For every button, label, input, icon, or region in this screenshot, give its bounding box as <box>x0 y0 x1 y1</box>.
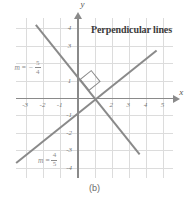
y-axis-arrow-icon <box>74 12 82 19</box>
y-axis <box>77 18 78 178</box>
gridline-horizontal <box>16 133 173 134</box>
slope-variable: m <box>38 156 43 165</box>
fraction-numerator: 5 <box>36 60 40 68</box>
fraction-denominator: 4 <box>36 68 40 76</box>
xtick-label: 4 <box>144 101 148 109</box>
ytick-label: -3 <box>66 146 72 154</box>
slope-label-negative: m = − 5 4 <box>14 60 40 76</box>
xtick-label: -3 <box>22 101 28 109</box>
slope-variable: m <box>14 63 19 72</box>
xtick-label: 2 <box>109 101 113 109</box>
slope-fraction: 5 4 <box>35 60 41 76</box>
slope-equals-sign: = − <box>21 63 33 72</box>
xtick-label: 5 <box>161 101 165 109</box>
ytick-label: 3 <box>68 42 72 50</box>
perpendicular-lines-figure: -3 -2 -1 2 3 4 5 4 3 1 -1 -2 -3 -4 x y m… <box>0 0 189 206</box>
slope-fraction: 4 5 <box>51 152 57 168</box>
ytick-label: -2 <box>66 129 72 137</box>
fraction-denominator: 5 <box>53 161 57 169</box>
chart-title: Perpendicular lines <box>88 23 175 36</box>
right-angle-marker <box>80 70 101 91</box>
x-axis-label: x <box>179 87 183 97</box>
ytick-label: -4 <box>66 164 72 172</box>
slope-label-positive: m = 4 5 <box>38 152 57 168</box>
y-axis-label: y <box>80 0 84 9</box>
ytick-label: 4 <box>68 24 72 32</box>
ytick-label: 1 <box>68 77 72 85</box>
coordinate-plot: -3 -2 -1 2 3 4 5 4 3 1 -1 -2 -3 -4 x y m… <box>16 18 173 178</box>
gridline-horizontal <box>16 46 173 47</box>
slope-equals-sign: = <box>45 156 50 165</box>
gridline-horizontal <box>16 150 173 151</box>
fraction-numerator: 4 <box>53 152 57 160</box>
xtick-label: 3 <box>127 101 131 109</box>
ytick-label: -1 <box>66 111 72 119</box>
xtick-label: -1 <box>57 101 63 109</box>
figure-caption: (b) <box>0 183 189 193</box>
xtick-label: -2 <box>40 101 46 109</box>
gridline-horizontal <box>16 115 173 116</box>
